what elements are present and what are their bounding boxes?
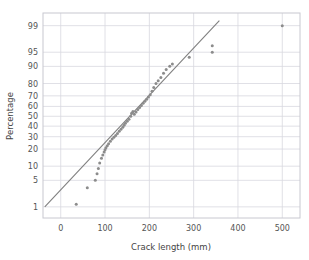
data-point [211, 51, 214, 54]
x-tick-label: 400 [230, 224, 245, 233]
probability-plot-figure: 151020304050607080909599 010020030040050… [0, 0, 309, 260]
y-tick-label: 70 [28, 92, 38, 101]
chart-svg: 151020304050607080909599 010020030040050… [0, 0, 309, 260]
data-point [188, 56, 191, 59]
data-point [171, 63, 174, 66]
data-point [107, 142, 110, 145]
y-tick-label: 50 [28, 112, 38, 121]
data-point [149, 93, 152, 96]
y-tick-label: 90 [28, 62, 38, 71]
y-tick-label: 99 [28, 22, 38, 31]
x-tick-label: 100 [97, 224, 112, 233]
x-tick-label: 500 [275, 224, 290, 233]
y-axis-title: Percentage [5, 92, 15, 140]
data-point [129, 115, 132, 118]
data-point [162, 72, 165, 75]
data-point [151, 90, 154, 93]
y-tick-label: 5 [33, 176, 38, 185]
data-point [127, 118, 130, 121]
chart-background [0, 0, 309, 260]
data-point [94, 179, 97, 182]
y-tick-label: 30 [28, 133, 38, 142]
y-tick-label: 40 [28, 122, 38, 131]
x-tick-label: 200 [142, 224, 157, 233]
data-point [165, 68, 168, 71]
data-point [131, 110, 134, 113]
data-point [98, 162, 101, 165]
data-point [154, 82, 157, 85]
y-tick-label: 10 [28, 162, 38, 171]
data-point [168, 65, 171, 68]
data-point [101, 154, 104, 157]
y-tick-label: 1 [33, 203, 38, 212]
data-point [135, 110, 138, 113]
data-point [152, 86, 155, 89]
x-tick-label: 300 [186, 224, 201, 233]
y-tick-label: 60 [28, 102, 38, 111]
data-point [75, 203, 78, 206]
x-tick-label: 0 [58, 224, 63, 233]
data-point [86, 186, 89, 189]
data-point [159, 76, 162, 79]
y-tick-label: 20 [28, 145, 38, 154]
x-axis-title: Crack length (mm) [131, 242, 211, 252]
data-point [100, 157, 103, 160]
data-point [96, 172, 99, 175]
data-point [281, 24, 284, 27]
data-point [211, 44, 214, 47]
data-point [97, 167, 100, 170]
data-point [157, 79, 160, 82]
y-tick-label: 80 [28, 80, 38, 89]
data-point [133, 113, 136, 116]
y-tick-label: 95 [28, 48, 38, 57]
